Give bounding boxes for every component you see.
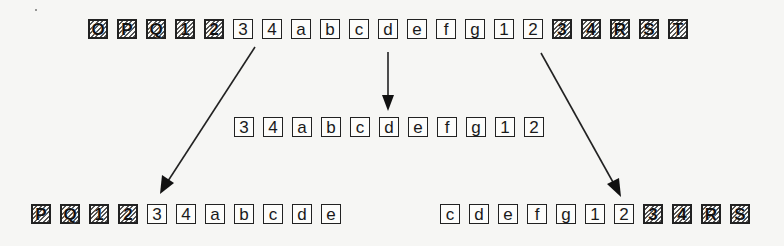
arrowhead-icon xyxy=(607,178,621,197)
arrow-to-bottom-right xyxy=(541,53,621,197)
arrowhead-icon xyxy=(160,175,174,194)
arrows-layer xyxy=(0,0,784,246)
arrow-shaft xyxy=(541,53,614,184)
arrowhead-icon xyxy=(382,95,394,111)
arrow-to-middle xyxy=(382,52,394,111)
arrow-to-bottom-left xyxy=(160,47,255,194)
arrow-shaft xyxy=(168,47,255,181)
